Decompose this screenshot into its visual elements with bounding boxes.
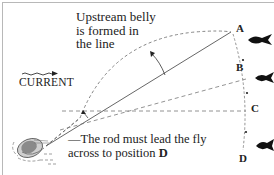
point-label-d: D <box>239 152 247 164</box>
fish-icon-b <box>255 72 274 83</box>
point-label-c: C <box>251 102 259 114</box>
belly-caption: Upstream belly is formed in the line <box>76 10 156 51</box>
rod-caption-line2-text: across to position <box>68 146 159 160</box>
fish-icon-a <box>248 34 272 45</box>
belly-arrow-icon <box>81 51 165 118</box>
belly-caption-line: is formed in <box>76 24 156 38</box>
rod-caption-line1: —The rod must lead the fly <box>68 133 207 147</box>
point-label-a: A <box>236 22 244 34</box>
rod-caption-position: D <box>159 146 168 160</box>
line-to-b <box>60 79 246 130</box>
current-label: CURRENT <box>19 75 74 89</box>
angler-icon <box>13 135 58 164</box>
fish-icon-d <box>256 139 274 151</box>
point-label-b: B <box>236 61 243 73</box>
belly-caption-line: the line <box>76 37 156 51</box>
rod-caption-line2: across to position D <box>68 147 207 161</box>
swing-arc <box>233 34 245 150</box>
rod-caption: —The rod must lead the fly across to pos… <box>68 133 207 160</box>
belly-caption-line: Upstream belly <box>76 10 156 24</box>
